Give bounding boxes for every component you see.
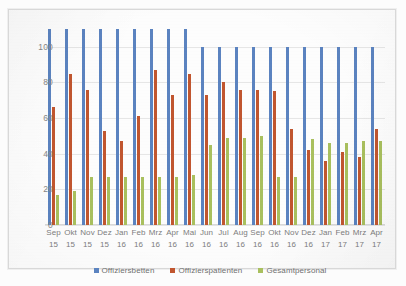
x-tick-month: Mai [181, 227, 198, 239]
bar-group [249, 29, 266, 225]
bar-2-0 [56, 195, 59, 225]
bar-1-14 [290, 129, 293, 225]
x-tick-year: 16 [130, 239, 147, 251]
x-tick-year: 17 [351, 239, 368, 251]
bar-2-7 [175, 177, 178, 225]
bar-2-16 [328, 143, 331, 225]
bar-group [147, 29, 164, 225]
bar-2-17 [345, 143, 348, 225]
bar-1-11 [239, 90, 242, 225]
bar-2-1 [73, 191, 76, 225]
bar-group [317, 29, 334, 225]
bar-group [62, 29, 79, 225]
bar-2-9 [209, 145, 212, 225]
x-tick-label: Jan17 [317, 227, 334, 263]
x-tick-year: 15 [79, 239, 96, 251]
legend-label: Gesamtpersonal [266, 266, 326, 275]
y-tick-label-80: 80 [13, 77, 53, 87]
bar-0-13 [269, 47, 272, 225]
bar-0-7 [167, 29, 170, 225]
bar-2-8 [192, 175, 195, 225]
x-tick-month: Jan [317, 227, 334, 239]
bar-group [300, 29, 317, 225]
x-tick-label: Nov15 [79, 227, 96, 263]
x-tick-year: 16 [300, 239, 317, 251]
y-tick-label-20: 20 [13, 184, 53, 194]
bar-1-16 [324, 161, 327, 225]
x-tick-label: Mrz17 [351, 227, 368, 263]
legend-item-2[interactable]: Gesamtpersonal [258, 266, 326, 275]
gridline-0 [45, 225, 385, 226]
x-tick-label: Sep15 [45, 227, 62, 263]
bar-2-10 [226, 138, 229, 225]
x-tick-year: 16 [198, 239, 215, 251]
bar-1-1 [69, 74, 72, 225]
y-tick-label-100: 100 [13, 42, 53, 52]
bar-1-17 [341, 152, 344, 225]
legend-label: Offiziersbetten [102, 266, 155, 275]
chart-legend: OffiziersbettenOffizierspatientenGesamtp… [17, 266, 403, 275]
x-tick-year: 16 [232, 239, 249, 251]
plot-area [45, 29, 385, 225]
bar-0-16 [320, 47, 323, 225]
bar-group [266, 29, 283, 225]
x-tick-year: 17 [334, 239, 351, 251]
x-tick-year: 16 [215, 239, 232, 251]
bar-0-11 [235, 47, 238, 225]
bar-2-4 [124, 177, 127, 225]
bar-1-15 [307, 150, 310, 225]
bar-0-0 [48, 29, 51, 225]
x-tick-month: Apr [164, 227, 181, 239]
bar-0-8 [184, 29, 187, 225]
x-tick-label: Aug16 [232, 227, 249, 263]
bar-2-12 [260, 136, 263, 225]
bar-2-14 [294, 177, 297, 225]
chart-screenshot: 020406080100 Sep15Okt15Nov15Dez15Jan16Fe… [0, 0, 406, 286]
bar-group [79, 29, 96, 225]
legend-swatch-icon [258, 268, 263, 273]
x-tick-label: Mrz16 [147, 227, 164, 263]
bar-group [334, 29, 351, 225]
x-tick-month: Sep [45, 227, 62, 239]
chart-frame: 020406080100 Sep15Okt15Nov15Dez15Jan16Fe… [8, 9, 396, 269]
bar-1-7 [171, 95, 174, 225]
bar-1-8 [188, 74, 191, 225]
bar-groups [45, 29, 385, 225]
legend-swatch-icon [170, 268, 175, 273]
bar-0-1 [65, 29, 68, 225]
x-tick-label: Jul16 [215, 227, 232, 263]
legend-item-0[interactable]: Offiziersbetten [94, 266, 155, 275]
bar-group [368, 29, 385, 225]
bar-group [96, 29, 113, 225]
x-tick-year: 16 [147, 239, 164, 251]
x-tick-year: 17 [317, 239, 334, 251]
bar-1-2 [86, 90, 89, 225]
bar-1-10 [222, 82, 225, 225]
bar-group [215, 29, 232, 225]
x-tick-label: Feb17 [334, 227, 351, 263]
bar-1-5 [137, 116, 140, 225]
bar-1-6 [154, 70, 157, 225]
bar-0-9 [201, 47, 204, 225]
bar-2-15 [311, 139, 314, 225]
legend-label: Offizierspatienten [178, 266, 242, 275]
legend-swatch-icon [94, 268, 99, 273]
bar-group [351, 29, 368, 225]
x-tick-year: 16 [266, 239, 283, 251]
bar-group [181, 29, 198, 225]
legend-item-1[interactable]: Offizierspatienten [170, 266, 242, 275]
x-tick-month: Dez [96, 227, 113, 239]
x-tick-label: Okt16 [266, 227, 283, 263]
bar-0-3 [99, 29, 102, 225]
x-tick-month: Okt [266, 227, 283, 239]
bar-group [45, 29, 62, 225]
bar-1-4 [120, 141, 123, 225]
x-axis-labels: Sep15Okt15Nov15Dez15Jan16Feb16Mrz16Apr16… [45, 227, 385, 263]
bar-group [232, 29, 249, 225]
bar-1-12 [256, 90, 259, 225]
x-tick-label: Nov16 [283, 227, 300, 263]
bar-0-6 [150, 29, 153, 225]
x-tick-label: Dez15 [96, 227, 113, 263]
x-tick-month: Mrz [147, 227, 164, 239]
bar-0-14 [286, 47, 289, 225]
